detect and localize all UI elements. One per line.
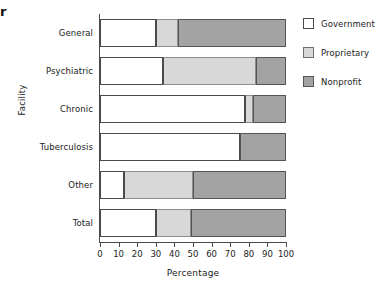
bar-segment-proprietary (156, 19, 178, 47)
legend-swatch-icon (303, 47, 314, 58)
stacked-bar (100, 133, 286, 161)
stacked-bar (100, 209, 286, 237)
bar-segment-proprietary (156, 209, 191, 237)
y-axis-line (99, 14, 100, 242)
bar-segment-government (100, 19, 156, 47)
stacked-bar (100, 95, 286, 123)
bar-segment-proprietary (163, 57, 256, 85)
x-tick-label: 90 (262, 249, 273, 259)
x-tick-label: 50 (188, 249, 199, 259)
category-label: General (59, 28, 93, 38)
x-tick-label: 30 (150, 249, 161, 259)
bar-segment-proprietary (124, 171, 193, 199)
x-tick (174, 242, 175, 247)
x-tick-label: 80 (243, 249, 254, 259)
bar-row: Psychiatric (100, 57, 286, 85)
x-tick (230, 242, 231, 247)
x-tick (100, 242, 101, 247)
legend-swatch-icon (303, 18, 314, 29)
x-tick (137, 242, 138, 247)
x-tick (249, 242, 250, 247)
legend-item-proprietary[interactable]: Proprietary (303, 47, 389, 58)
x-tick (267, 242, 268, 247)
bar-row: General (100, 19, 286, 47)
x-tick (286, 242, 287, 247)
x-tick-label: 10 (113, 249, 124, 259)
x-tick (212, 242, 213, 247)
x-tick-label: 60 (206, 249, 217, 259)
x-tick-label: 100 (278, 249, 294, 259)
bar-segment-nonprofit (191, 209, 286, 237)
bar-row: Total (100, 209, 286, 237)
bar-segment-nonprofit (240, 133, 287, 161)
category-label: Psychiatric (46, 66, 93, 76)
x-axis-title: Percentage (100, 268, 286, 278)
category-label: Tuberculosis (40, 142, 93, 152)
bar-row: Other (100, 171, 286, 199)
legend-item-nonprofit[interactable]: Nonprofit (303, 76, 389, 87)
bar-segment-government (100, 95, 245, 123)
bar-segment-nonprofit (178, 19, 286, 47)
legend-label: Nonprofit (321, 77, 361, 87)
x-tick-label: 40 (169, 249, 180, 259)
legend-item-government[interactable]: Government (303, 18, 389, 29)
plot-area: GeneralPsychiatricChronicTuberculosisOth… (100, 14, 286, 242)
category-label: Other (68, 180, 93, 190)
bar-segment-nonprofit (256, 57, 286, 85)
x-tick-label: 20 (132, 249, 143, 259)
bar-row: Chronic (100, 95, 286, 123)
y-axis-title: Facility (17, 60, 27, 140)
bar-segment-nonprofit (253, 95, 286, 123)
x-tick-label: 70 (225, 249, 236, 259)
bar-segment-proprietary (245, 95, 252, 123)
bar-segment-government (100, 133, 240, 161)
category-label: Chronic (60, 104, 93, 114)
edge-text-artifact: r (0, 4, 12, 38)
stacked-bar (100, 57, 286, 85)
bar-segment-government (100, 57, 163, 85)
legend-label: Government (321, 19, 375, 29)
x-tick (193, 242, 194, 247)
chart-root: r Facility Percentage GeneralPsychiatric… (0, 0, 389, 291)
bar-segment-nonprofit (193, 171, 286, 199)
x-tick-label: 0 (97, 249, 102, 259)
stacked-bar (100, 171, 286, 199)
bar-segment-government (100, 209, 156, 237)
category-label: Total (73, 218, 93, 228)
legend-label: Proprietary (321, 48, 369, 58)
legend: GovernmentProprietaryNonprofit (303, 18, 389, 105)
legend-swatch-icon (303, 76, 314, 87)
x-tick (119, 242, 120, 247)
stacked-bar (100, 19, 286, 47)
bar-segment-government (100, 171, 124, 199)
x-tick (156, 242, 157, 247)
bar-row: Tuberculosis (100, 133, 286, 161)
